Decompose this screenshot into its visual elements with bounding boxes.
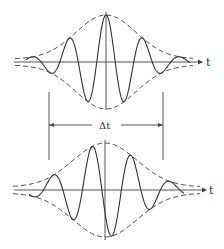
bracket-left-arrow-icon bbox=[49, 123, 54, 127]
bracket-right-arrow-icon bbox=[158, 123, 163, 127]
bottom-axis-arrow-icon bbox=[202, 188, 207, 193]
wave-packet-diagram: t Δt t bbox=[0, 0, 224, 249]
bottom-wave-packet: t bbox=[13, 140, 214, 240]
bottom-envelope-lower bbox=[13, 194, 200, 237]
delay-label: Δt bbox=[99, 120, 110, 131]
top-envelope-lower bbox=[15, 65, 193, 109]
bottom-axis-label: t bbox=[209, 184, 214, 197]
bottom-carrier-wave bbox=[29, 146, 184, 236]
top-axis-label: t bbox=[206, 56, 211, 69]
bottom-envelope-upper bbox=[13, 143, 200, 186]
top-axis-arrow-icon bbox=[198, 60, 203, 65]
top-wave-packet: t bbox=[14, 12, 211, 110]
top-envelope-upper bbox=[15, 15, 193, 59]
top-carrier-wave bbox=[26, 15, 190, 102]
